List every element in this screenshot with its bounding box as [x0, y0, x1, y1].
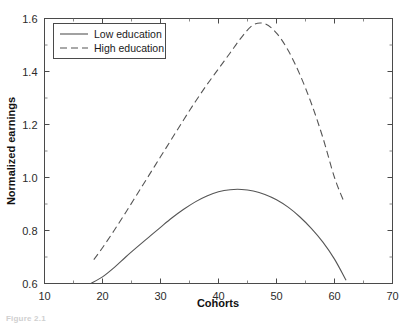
y-tick-label: 0.6: [22, 278, 37, 290]
x-tick-label: 60: [328, 290, 340, 302]
x-tick-label: 20: [96, 290, 108, 302]
x-tick-label: 50: [270, 290, 282, 302]
y-axis-tick-labels: 0.60.81.01.21.41.6: [22, 13, 37, 290]
earnings-line-chart: 10203040506070 0.60.81.01.21.41.6 Cohort…: [0, 0, 410, 330]
y-axis-title: Normalized earnings: [5, 97, 17, 205]
x-tick-label: 70: [386, 290, 398, 302]
legend-label-low-education: Low education: [94, 28, 162, 40]
series-layer: [91, 23, 346, 284]
x-tick-label: 30: [154, 290, 166, 302]
figure-container: 10203040506070 0.60.81.01.21.41.6 Cohort…: [0, 0, 410, 330]
series-line-low-education: [91, 189, 346, 283]
legend-label-high-education: High education: [94, 42, 164, 54]
y-tick-label: 1.6: [22, 13, 37, 25]
figure-caption: Figure 2.1: [6, 314, 46, 323]
y-tick-label: 1.0: [22, 172, 37, 184]
x-tick-label: 10: [38, 290, 50, 302]
y-tick-label: 1.2: [22, 119, 37, 131]
x-axis-title: Cohorts: [197, 297, 239, 309]
chart-legend: Low education High education: [54, 24, 166, 59]
y-tick-label: 1.4: [22, 66, 37, 78]
y-tick-label: 0.8: [22, 225, 37, 237]
